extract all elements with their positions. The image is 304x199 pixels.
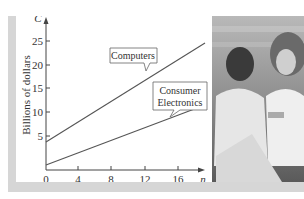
x-axis-variable: n xyxy=(200,173,206,182)
callout-computers: Computers xyxy=(110,48,157,71)
photo-people-laptop xyxy=(212,16,304,182)
callout-label: Computers xyxy=(111,50,155,61)
y-tick-label: 10 xyxy=(32,106,44,118)
x-tick-label: 12 xyxy=(140,173,151,182)
x-tick-label: 16 xyxy=(173,173,185,182)
callout-consumer-electronics: Consumer Electronics xyxy=(153,82,207,117)
y-tick-label: 5 xyxy=(38,130,44,142)
callout-label-line2: Electronics xyxy=(158,97,203,108)
x-tick-label: 8 xyxy=(108,173,114,182)
x-tick-label: 0 xyxy=(43,173,49,182)
x-tick-label: 4 xyxy=(75,173,81,182)
series-line-consumer-electronics xyxy=(46,105,205,165)
x-axis-arrow-icon xyxy=(198,168,205,173)
y-tick-label: 20 xyxy=(32,59,44,71)
callout-label-line1: Consumer xyxy=(159,85,201,96)
y-tick-label: 15 xyxy=(32,82,44,94)
y-ticks xyxy=(46,41,50,136)
y-axis-variable: C xyxy=(34,16,42,24)
y-axis-label: Billions of dollars xyxy=(20,55,32,134)
y-tick-label: 25 xyxy=(32,35,44,47)
line-chart: 5 10 15 20 25 0 4 8 12 16 C n Year Billi… xyxy=(16,16,212,182)
y-axis-arrow-icon xyxy=(44,17,49,24)
chart-panel: 5 10 15 20 25 0 4 8 12 16 C n Year Billi… xyxy=(16,16,212,182)
x-ticks xyxy=(78,166,178,170)
